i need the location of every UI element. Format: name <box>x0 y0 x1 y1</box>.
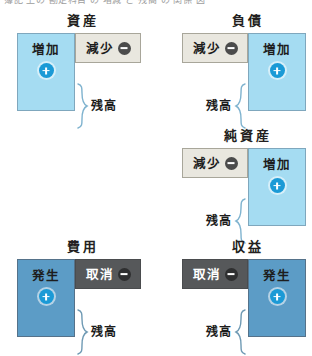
brace-right-icon <box>77 309 89 355</box>
t-account-net-assets: 減少 増加 残高 <box>182 148 306 226</box>
diagram-title-expenses: 費用 <box>17 240 145 254</box>
minus-icon <box>118 268 131 281</box>
brace-right-icon <box>77 83 89 129</box>
assets-decrease-cell: 減少 <box>75 33 141 63</box>
net-assets-decrease-label: 減少 <box>193 157 221 170</box>
diagram-title-revenue: 収益 <box>182 240 310 254</box>
diagram-title-liabilities: 負債 <box>182 14 310 28</box>
expenses-occurrence-label: 発生 <box>32 269 60 282</box>
minus-icon <box>225 268 238 281</box>
revenue-occurrence-cell: 発生 <box>248 259 306 337</box>
revenue-occurrence-label: 発生 <box>263 269 291 282</box>
liabilities-balance-label: 残高 <box>206 100 232 113</box>
minus-icon <box>118 42 131 55</box>
expenses-balance-label: 残高 <box>91 326 117 339</box>
diagram-net-assets: 純資産 減少 増加 残高 <box>182 129 310 229</box>
t-account-expenses: 発生 取消 残高 <box>17 259 141 337</box>
plus-icon <box>270 63 285 78</box>
assets-increase-label: 増加 <box>32 43 60 56</box>
revenue-balance-label: 残高 <box>206 326 232 339</box>
brace-left-icon <box>234 83 246 129</box>
liabilities-increase-cell: 増加 <box>248 33 306 111</box>
revenue-balance-group: 残高 <box>206 308 246 356</box>
net-assets-increase-label: 増加 <box>263 158 291 171</box>
net-assets-balance-label: 残高 <box>206 215 232 228</box>
net-assets-increase-cell: 増加 <box>248 148 306 226</box>
expenses-cancellation-cell: 取消 <box>75 259 141 289</box>
t-account-liabilities: 減少 増加 残高 <box>182 33 306 111</box>
plus-icon <box>39 289 54 304</box>
revenue-cancellation-label: 取消 <box>193 268 221 281</box>
assets-balance-label: 残高 <box>91 100 117 113</box>
brace-left-icon <box>234 309 246 355</box>
diagram-assets: 資産 増加 減少 残高 <box>17 14 145 114</box>
minus-icon <box>225 157 238 170</box>
assets-decrease-label: 減少 <box>86 42 114 55</box>
plus-icon <box>270 178 285 193</box>
liabilities-decrease-label: 減少 <box>193 42 221 55</box>
plus-icon <box>39 63 54 78</box>
t-account-assets: 増加 減少 残高 <box>17 33 141 111</box>
net-assets-decrease-cell: 減少 <box>182 148 248 178</box>
diagram-title-assets: 資産 <box>17 14 145 28</box>
liabilities-decrease-cell: 減少 <box>182 33 248 63</box>
t-account-revenue: 取消 発生 残高 <box>182 259 306 337</box>
diagram-revenue: 収益 取消 発生 残高 <box>182 240 310 340</box>
expenses-balance-group: 残高 <box>77 308 117 356</box>
revenue-cancellation-cell: 取消 <box>182 259 248 289</box>
expenses-occurrence-cell: 発生 <box>17 259 75 337</box>
diagram-title-net-assets: 純資産 <box>182 129 310 143</box>
plus-icon <box>270 289 285 304</box>
liabilities-balance-group: 残高 <box>206 82 246 130</box>
expenses-cancellation-label: 取消 <box>86 268 114 281</box>
assets-increase-cell: 増加 <box>17 33 75 111</box>
liabilities-increase-label: 増加 <box>263 43 291 56</box>
brace-left-icon <box>234 198 246 244</box>
assets-balance-group: 残高 <box>77 82 117 130</box>
net-assets-balance-group: 残高 <box>206 197 246 245</box>
diagram-liabilities: 負債 減少 増加 残高 <box>182 14 310 114</box>
minus-icon <box>225 42 238 55</box>
diagram-expenses: 費用 発生 取消 残高 <box>17 240 145 340</box>
